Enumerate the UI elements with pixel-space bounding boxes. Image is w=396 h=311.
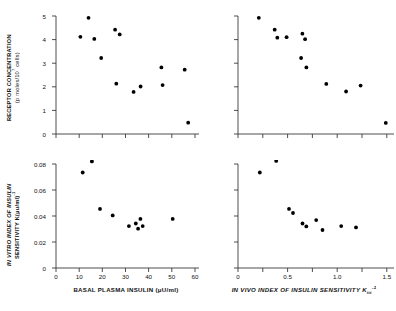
data-point: [139, 85, 143, 89]
data-point: [87, 16, 91, 20]
data-point: [113, 28, 117, 32]
data-point: [291, 211, 295, 215]
y-tick-marks: [234, 164, 238, 268]
xtick-basal-10: 10: [71, 273, 87, 280]
ytick-receptor-2: 2: [34, 83, 46, 90]
x-tick-marks: [56, 268, 195, 272]
data-point: [303, 37, 307, 41]
xtick-basal-0: 0: [48, 273, 64, 280]
data-points-bottom-right: [258, 160, 358, 232]
data-points-bottom-left: [81, 160, 175, 231]
data-point: [299, 56, 303, 60]
data-point: [161, 83, 165, 87]
data-point: [344, 90, 348, 94]
plot-bottom-right: [228, 160, 396, 282]
data-point: [354, 226, 358, 230]
data-point: [287, 207, 291, 211]
xtick-basal-40: 40: [141, 273, 157, 280]
axis-label-basal-plasma-insulin: BASAL PLASMA INSULIN (μU/ml): [46, 286, 206, 293]
y-tick-marks: [52, 164, 56, 268]
data-point: [186, 121, 190, 125]
data-points-top-left: [79, 16, 191, 125]
axis-label-line1: RECEPTOR CONCENTRATION: [6, 35, 12, 122]
data-point: [114, 82, 118, 86]
data-point: [90, 160, 94, 163]
data-point: [257, 16, 261, 20]
xtick-basal-60: 60: [187, 273, 203, 280]
figure-scatter-matrix: RECEPTOR CONCENTRATION (p moles/107 cell…: [0, 0, 396, 311]
axis-label-line2: (p moles/107 cells): [14, 53, 20, 104]
axis-label-invivo-index: IN VIVO INDEX OF INSULIN SENSITIVITY Kit…: [212, 286, 396, 295]
x-tick-marks: [238, 134, 387, 138]
data-point: [160, 66, 164, 70]
x-tick-marks: [238, 268, 387, 272]
data-point: [274, 160, 278, 163]
panel-bottom-left: [46, 160, 201, 282]
data-point: [132, 90, 136, 94]
ytick-invitro-002: 0.02: [24, 239, 46, 246]
axis-label-line2: SENSITIVITY K(μu/ml)-1: [14, 191, 20, 258]
data-point: [339, 224, 343, 228]
xtick-basal-20: 20: [94, 273, 110, 280]
data-point: [98, 207, 102, 211]
axis-label-receptor-concentration-left: RECEPTOR CONCENTRATION (p moles/107 cell…: [6, 18, 28, 138]
data-point: [301, 32, 305, 36]
ytick-invitro-004: 0.04: [24, 213, 46, 220]
data-point: [314, 218, 318, 222]
data-point: [183, 68, 187, 72]
data-point: [136, 227, 140, 231]
data-point: [275, 36, 279, 40]
ytick-receptor-0: 0: [34, 131, 46, 138]
xtick-invivo-05: 0.5: [280, 273, 296, 280]
data-point: [305, 66, 309, 70]
data-point: [79, 35, 83, 39]
panel-bottom-right: [228, 160, 396, 282]
panel-top-left: [46, 12, 201, 148]
xtick-invivo-15: 1.5: [379, 273, 395, 280]
data-point: [171, 217, 175, 221]
ytick-receptor-3: 3: [34, 60, 46, 67]
data-point: [118, 33, 122, 37]
data-point: [285, 35, 289, 39]
data-points-top-right: [257, 16, 388, 125]
data-point: [304, 225, 308, 229]
data-point: [359, 84, 363, 88]
data-point: [301, 222, 305, 226]
data-point: [384, 121, 388, 125]
xtick-basal-30: 30: [118, 273, 134, 280]
plot-bottom-left: [46, 160, 201, 282]
ytick-invitro-008: 0.08: [24, 161, 46, 168]
ytick-invitro-006: 0.06: [24, 187, 46, 194]
data-point: [321, 228, 325, 232]
xtick-invivo-0: 0: [230, 273, 246, 280]
ytick-invitro-0: 0: [28, 265, 46, 272]
data-point: [127, 224, 131, 228]
ytick-receptor-1: 1: [34, 107, 46, 114]
data-point: [81, 171, 85, 175]
ytick-receptor-4: 4: [34, 36, 46, 43]
y-tick-marks: [234, 16, 238, 134]
xtick-basal-50: 50: [164, 273, 180, 280]
x-tick-marks: [56, 134, 195, 138]
data-point: [258, 171, 262, 175]
plot-top-left: [46, 12, 201, 148]
xtick-invivo-10: 1.0: [329, 273, 345, 280]
y-tick-marks: [52, 16, 56, 134]
data-point: [99, 56, 103, 60]
panel-top-right: [228, 12, 396, 148]
data-point: [141, 224, 145, 228]
data-point: [324, 82, 328, 86]
data-point: [139, 217, 143, 221]
plot-top-right: [228, 12, 396, 148]
axis-label-line1: IN VITRO INDEX OF INSULIN: [6, 184, 12, 266]
data-point: [134, 222, 138, 226]
data-point: [111, 214, 115, 218]
data-point: [273, 28, 277, 32]
ytick-receptor-5: 5: [34, 13, 46, 20]
data-point: [92, 37, 96, 41]
